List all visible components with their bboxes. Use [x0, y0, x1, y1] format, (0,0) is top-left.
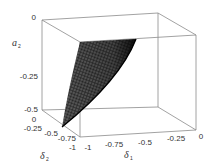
x-axis-subscript: 1 [130, 155, 133, 161]
y-tick-0: 0 [32, 115, 37, 124]
x-tick-2: -0.5 [138, 138, 152, 147]
z-tick-0: 0 [32, 13, 37, 22]
x-axis-label: δ [124, 149, 129, 160]
y-axis-subscript: 2 [46, 156, 49, 162]
z-tick-1: -0.25 [20, 72, 39, 81]
x-tick-0: -1 [84, 143, 92, 152]
y-tick-2: -0.5 [44, 129, 58, 138]
y-tick-1: -0.25 [24, 124, 43, 133]
z-axis-subscript: 2 [18, 43, 21, 49]
x-tick-1: -0.75 [105, 140, 124, 149]
surface-plot: 0 -0.25 -0.5 a 2 0 -0.25 -0.5 -0.75 -1 δ… [0, 0, 213, 163]
y-axis-label: δ [40, 150, 45, 161]
x-tick-4: 0 [199, 132, 204, 141]
z-axis-label: a [12, 37, 17, 48]
z-tick-2: -0.5 [24, 105, 38, 114]
surface-mesh [62, 39, 136, 127]
z-axis: 0 -0.25 -0.5 a 2 [12, 13, 39, 114]
x-axis: -1 -0.75 -0.5 -0.25 0 δ 1 [84, 132, 203, 161]
y-tick-4: -1 [69, 143, 77, 152]
y-tick-3: -0.75 [58, 134, 77, 143]
x-tick-3: -0.25 [167, 134, 186, 143]
